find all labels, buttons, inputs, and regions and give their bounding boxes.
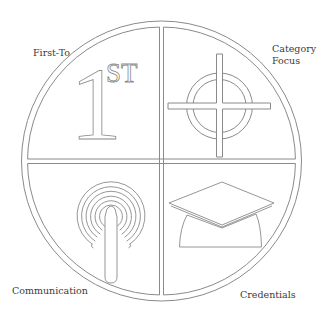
graduation-cap-icon bbox=[169, 182, 274, 247]
label-category-focus: Category Focus bbox=[272, 43, 316, 66]
label-category: Category bbox=[272, 43, 316, 54]
label-first-to: First-To bbox=[33, 47, 70, 58]
icon-text-st: ST bbox=[106, 58, 138, 88]
first-place-1st-icon: 1 ST bbox=[70, 46, 138, 161]
crosshair-target-icon bbox=[168, 54, 271, 157]
broadcast-antenna-icon bbox=[77, 182, 145, 283]
label-focus: Focus bbox=[272, 55, 316, 66]
label-communication: Communication bbox=[12, 285, 88, 296]
label-credentials: Credentials bbox=[240, 289, 296, 300]
